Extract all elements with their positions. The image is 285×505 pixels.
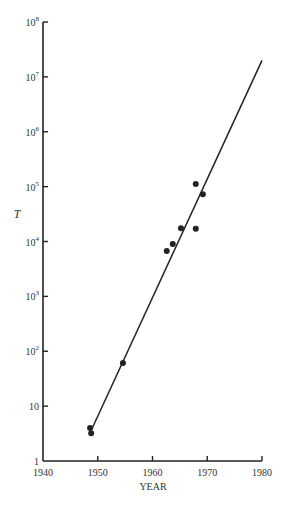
x-tick-label: 1950 [88,467,108,478]
fit-line [92,60,262,428]
x-ticks: 19401950196019701980 [33,456,272,478]
chart: 110102103104105106107108 194019501960197… [0,0,285,505]
data-point [178,225,184,231]
x-tick-label: 1960 [143,467,163,478]
y-tick-label: 10 [29,401,39,412]
fit-line-path [92,60,262,428]
data-point [200,191,206,197]
y-tick-label: 106 [26,125,40,138]
data-point [120,360,126,366]
y-axis-title: T [14,207,22,221]
data-point [170,241,176,247]
y-tick-label: 104 [26,235,40,248]
x-axis-title: YEAR [139,481,167,492]
x-tick-label: 1980 [252,467,272,478]
x-tick-label: 1970 [197,467,217,478]
x-tick-label: 1940 [33,467,53,478]
axes [43,22,262,461]
data-point [164,248,170,254]
y-tick-label: 105 [26,180,40,193]
y-tick-label: 107 [26,70,40,83]
y-tick-label: 103 [26,289,40,302]
y-tick-label: 1 [34,456,39,467]
y-tick-label: 108 [26,15,40,28]
data-point [193,226,199,232]
data-point [88,430,94,436]
data-point [87,425,93,431]
y-tick-label: 102 [26,344,40,357]
y-ticks: 110102103104105106107108 [26,15,49,467]
data-point [193,181,199,187]
